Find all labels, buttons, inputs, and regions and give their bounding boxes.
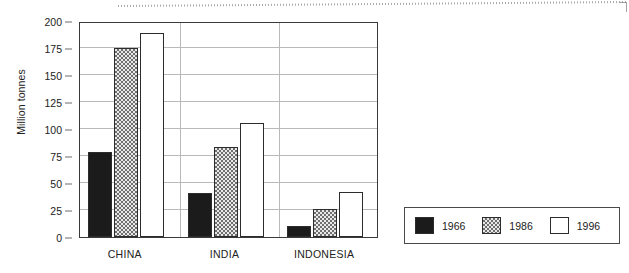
y-tick-mark xyxy=(65,238,72,239)
bar-china-1966 xyxy=(88,152,112,237)
y-tick-mark xyxy=(65,184,72,185)
legend-swatch-1966 xyxy=(415,217,434,234)
x-tick-label: INDIA xyxy=(210,248,240,260)
y-tick-label: 0 xyxy=(56,232,62,244)
bar-chart: Million tonnes 0255075100125150175200 CH… xyxy=(0,0,400,273)
plot-area xyxy=(79,22,378,238)
legend-item-1996: 1996 xyxy=(550,217,600,234)
bar-india-1966 xyxy=(188,193,212,237)
y-tick-label: 150 xyxy=(44,70,62,82)
legend-label: 1966 xyxy=(442,220,465,232)
group-separator xyxy=(279,23,280,237)
bar-india-1986 xyxy=(214,147,238,237)
legend-label: 1986 xyxy=(509,220,532,232)
legend-item-1966: 1966 xyxy=(415,217,465,234)
y-tick-label: 125 xyxy=(44,97,62,109)
y-tick-mark xyxy=(65,76,72,77)
y-tick-label: 25 xyxy=(50,205,62,217)
scan-artifact-corner xyxy=(619,2,627,12)
legend-swatch-1986 xyxy=(482,217,501,234)
legend-swatch-1996 xyxy=(550,217,569,234)
y-tick-label: 100 xyxy=(44,124,62,136)
y-tick-label: 75 xyxy=(50,151,62,163)
bar-china-1986 xyxy=(114,48,138,237)
y-tick-mark xyxy=(65,157,72,158)
x-tick-label: INDONESIA xyxy=(294,248,354,260)
y-tick-mark xyxy=(65,22,72,23)
legend-item-1986: 1986 xyxy=(482,217,532,234)
chart-legend: 196619861996 xyxy=(404,207,620,244)
bar-china-1996 xyxy=(140,33,164,237)
y-tick-mark xyxy=(65,211,72,212)
y-tick-mark xyxy=(65,49,72,50)
y-tick-label: 200 xyxy=(44,16,62,28)
x-tick-label: CHINA xyxy=(108,248,142,260)
legend-label: 1996 xyxy=(577,220,600,232)
y-tick-mark xyxy=(65,130,72,131)
bar-indonesia-1966 xyxy=(287,226,311,237)
bar-indonesia-1986 xyxy=(313,209,337,237)
x-axis-tick-labels: CHINAINDIAINDONESIA xyxy=(79,248,378,266)
bar-indonesia-1996 xyxy=(339,192,363,237)
y-tick-mark xyxy=(65,103,72,104)
y-tick-label: 175 xyxy=(44,43,62,55)
y-tick-label: 50 xyxy=(50,178,62,190)
y-axis-tick-labels: 0255075100125150175200 xyxy=(0,22,72,238)
bar-india-1996 xyxy=(240,123,264,237)
group-separator xyxy=(180,23,181,237)
